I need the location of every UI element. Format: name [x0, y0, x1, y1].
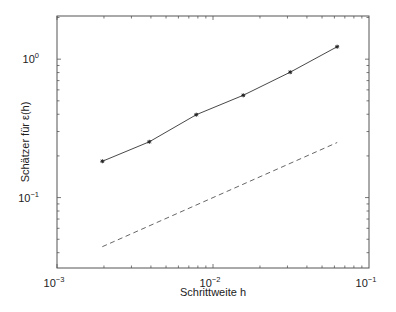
data-point-marker	[100, 159, 104, 163]
data-point-marker	[288, 70, 292, 74]
data-point-marker	[194, 113, 198, 117]
data-point-marker	[147, 140, 151, 144]
plot-frame	[57, 16, 369, 268]
series-layer	[100, 45, 339, 247]
data-line	[102, 47, 337, 162]
x-tick-label: 10−1	[356, 275, 377, 289]
data-point-marker	[241, 93, 245, 97]
x-tick-label: 10−3	[44, 275, 65, 289]
y-axis-label: Schätzer für ε(h)	[19, 102, 31, 183]
log-log-chart: 10−310−210−1 10010−1 Schrittweite h Schä…	[0, 0, 396, 312]
minor-ticks	[57, 16, 369, 268]
data-point-marker	[335, 45, 339, 49]
y-tick-label: 100	[23, 51, 39, 65]
x-axis-label: Schrittweite h	[180, 286, 246, 298]
reference-line	[102, 143, 337, 247]
y-tick-label: 10−1	[18, 190, 39, 204]
